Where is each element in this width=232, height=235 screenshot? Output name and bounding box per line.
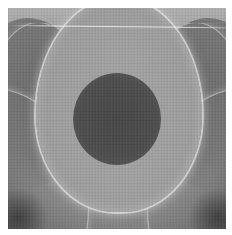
grain-texture <box>8 8 226 229</box>
micrograph-image: grayscale micrograph / interference patt… <box>8 8 226 229</box>
